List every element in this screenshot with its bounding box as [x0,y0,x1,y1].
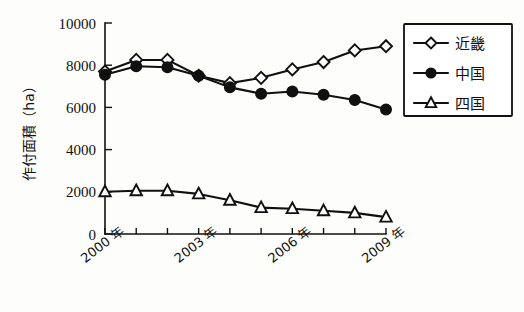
legend-label: 中国 [455,65,485,83]
y-axis: 0200040006000800010000 [59,16,113,243]
data-point-marker [318,56,330,68]
data-point-marker [286,63,298,75]
data-point-marker [255,72,267,84]
data-point-marker [131,61,141,71]
series-中国 [100,61,391,115]
data-point-marker [100,69,110,79]
data-point-marker [162,62,172,72]
x-tick-label: 2009 年 [359,223,408,266]
data-point-marker [380,40,392,52]
data-point-marker [225,82,235,92]
y-tick-label: 2000 [66,184,96,200]
y-tick-label: 6000 [66,100,96,116]
series-line [105,66,386,109]
series-line [105,46,386,83]
data-point-marker [193,71,203,81]
series-plot-area [99,40,392,221]
y-tick-label: 4000 [66,142,96,158]
y-tick-label: 8000 [66,58,96,74]
legend: 近畿中国四国 [404,24,512,116]
data-point-marker [350,95,360,105]
data-point-marker [287,86,297,96]
chart-canvas: 作付面積（ha） 0200040006000800010000 2000 年20… [0,0,524,312]
data-point-marker [426,68,436,78]
x-axis: 2000 年2003 年2006 年2009 年 [78,223,408,266]
data-point-marker [381,104,391,114]
series-四国 [99,185,391,222]
data-point-marker [318,90,328,100]
line-chart-figure: 作付面積（ha） 0200040006000800010000 2000 年20… [0,0,524,312]
x-tick-label: 2006 年 [265,223,314,266]
legend-label: 四国 [455,95,485,113]
y-axis-title: 作付面積（ha） [21,79,37,180]
data-point-marker [349,44,361,56]
y-axis-title-text: 作付面積（ha） [21,79,37,180]
series-近畿 [99,40,392,89]
data-point-marker [256,88,266,98]
x-tick-label: 2003 年 [171,223,220,266]
legend-label: 近畿 [455,35,485,53]
series-line [105,191,386,217]
x-tick-label: 2000 年 [78,223,127,266]
y-tick-label: 10000 [59,16,97,32]
